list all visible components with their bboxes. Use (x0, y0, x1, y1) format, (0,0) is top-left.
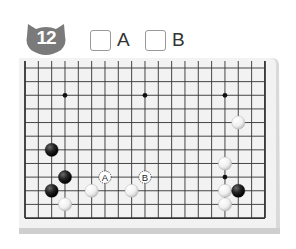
white-stone (58, 198, 71, 211)
star-point (223, 175, 228, 180)
white-stone (85, 184, 98, 197)
marker-a[interactable]: A (99, 171, 111, 183)
black-stone (45, 143, 58, 156)
svg-text:B: B (142, 172, 148, 183)
go-board: AB (0, 0, 296, 249)
white-stone (232, 116, 245, 129)
white-stone (218, 157, 231, 170)
white-stone (218, 184, 231, 197)
white-stone (218, 198, 231, 211)
svg-text:A: A (102, 172, 109, 183)
star-point (223, 93, 228, 98)
star-point (63, 93, 68, 98)
star-point (143, 93, 148, 98)
black-stone (232, 184, 245, 197)
marker-b[interactable]: B (139, 171, 151, 183)
black-stone (58, 171, 71, 184)
white-stone (125, 184, 138, 197)
black-stone (45, 184, 58, 197)
